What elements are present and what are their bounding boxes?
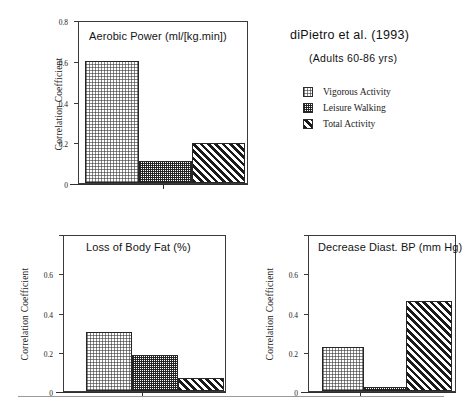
bar-vigorous-activity xyxy=(322,347,364,391)
y-tick-label-0.6: 0.6 xyxy=(289,271,298,280)
bar-total-activity xyxy=(192,143,245,183)
chart-decrease-diastolic-bp: Correlation Coefficient 0.6 0.4 0.2 0 De… xyxy=(240,212,462,392)
chart-aerobic-power: Correlation Coefficient 0.8 0.6 0.4 0.2 … xyxy=(0,0,260,205)
y-tick-label-0.6: 0.6 xyxy=(44,271,53,280)
y-axis-title: Correlation Coefficient xyxy=(265,268,275,361)
legend-label-vigorous-activity: Vigorous Activity xyxy=(323,87,391,97)
study-population: (Adults 60-86 yrs) xyxy=(309,52,397,64)
y-tick-label-0.2: 0.2 xyxy=(289,349,298,358)
legend-swatch-check-icon xyxy=(303,103,313,113)
legend-item-vigorous-activity: Vigorous Activity xyxy=(303,84,391,100)
bar-total-activity xyxy=(406,301,452,391)
legend: Vigorous Activity Leisure Walking Total … xyxy=(303,84,391,132)
legend-item-leisure-walking: Leisure Walking xyxy=(303,100,391,116)
plot-title: Aerobic Power (ml/[kg.min]) xyxy=(89,30,227,42)
y-tick-label-0.4: 0.4 xyxy=(59,99,68,108)
plot-frame: Aerobic Power (ml/[kg.min]) xyxy=(78,21,248,184)
study-citation: diPietro et al. (1993) xyxy=(290,28,409,42)
bar-total-activity xyxy=(178,378,224,391)
x-axis xyxy=(70,184,248,185)
y-tick-label-0: 0 xyxy=(64,181,68,190)
plot-title: Decrease Diast. BP (mm Hg) xyxy=(318,241,462,253)
bar-vigorous-activity xyxy=(86,332,132,391)
legend-swatch-diagonal-icon xyxy=(303,119,313,129)
bar-vigorous-activity xyxy=(85,61,139,183)
legend-swatch-dots-icon xyxy=(303,87,313,97)
x-axis-center-tick xyxy=(163,184,164,189)
y-tick-label-0.2: 0.2 xyxy=(44,349,53,358)
y-tick-label-0.6: 0.6 xyxy=(59,58,68,67)
plot-title: Loss of Body Fat (%) xyxy=(86,241,191,253)
bar-leisure-walking xyxy=(139,161,192,183)
bar-leisure-walking xyxy=(132,355,178,391)
study-header: diPietro et al. (1993) (Adults 60-86 yrs… xyxy=(262,0,462,160)
legend-item-total-activity: Total Activity xyxy=(303,116,391,132)
y-tick-label-0.4: 0.4 xyxy=(44,310,53,319)
plot-frame: Decrease Diast. BP (mm Hg) xyxy=(308,235,456,392)
plot-frame: Loss of Body Fat (%) xyxy=(63,235,226,392)
bar-leisure-walking xyxy=(364,387,406,391)
y-tick-label-0.4: 0.4 xyxy=(289,310,298,319)
y-tick-label-0.2: 0.2 xyxy=(59,140,68,149)
legend-label-leisure-walking: Leisure Walking xyxy=(323,103,386,113)
footer-divider xyxy=(18,396,444,397)
x-axis xyxy=(56,392,226,393)
x-axis xyxy=(301,392,456,393)
y-axis-title: Correlation Coefficient xyxy=(20,268,30,361)
chart-loss-of-body-fat: Correlation Coefficient 0.6 0.4 0.2 0 Lo… xyxy=(0,212,240,392)
y-tick-label-0.8: 0.8 xyxy=(59,18,68,27)
legend-label-total-activity: Total Activity xyxy=(323,119,375,129)
